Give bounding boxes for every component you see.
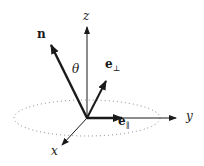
n-vector [51, 45, 87, 118]
diagram-canvas [0, 0, 204, 166]
e-perp-label: e⊥ [105, 58, 120, 73]
x-axis [62, 118, 87, 145]
n-vector-label: n [37, 28, 46, 40]
e-perp-base: e [105, 57, 113, 71]
e-perp-vector [87, 81, 106, 118]
x-axis-label: x [51, 145, 58, 157]
e-perp-subscript: ⊥ [113, 64, 121, 73]
coordinate-diagram: z y x n θ e⊥ e∥ [0, 0, 204, 166]
e-par-subscript: ∥ [126, 121, 130, 130]
e-par-label: e∥ [118, 115, 129, 130]
theta-angle-label: θ [72, 63, 79, 75]
y-axis-label: y [186, 110, 193, 122]
z-axis-label: z [83, 10, 89, 22]
e-par-base: e [118, 114, 126, 128]
